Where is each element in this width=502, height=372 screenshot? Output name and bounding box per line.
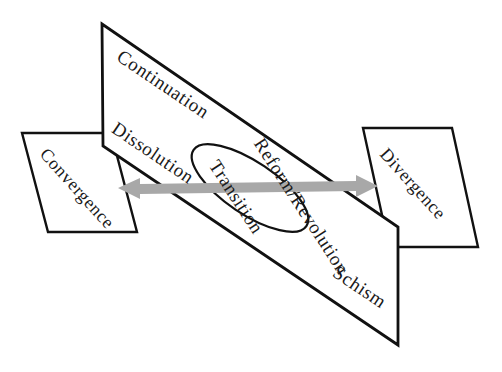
diagram-canvas: Continuation Dissolution Reform/Revoluti… [0, 0, 502, 372]
diagram-figure: Continuation Dissolution Reform/Revoluti… [0, 0, 502, 372]
